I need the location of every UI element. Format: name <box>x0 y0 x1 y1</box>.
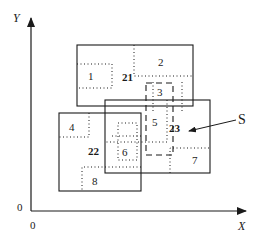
leaf-label-7: 7 <box>192 154 198 166</box>
origin-y-label: 0 <box>17 201 23 213</box>
leaf-label-2: 2 <box>158 56 164 68</box>
y-axis-label: Y <box>13 11 21 25</box>
node-label-21: 21 <box>122 71 133 83</box>
query-label: S <box>238 112 246 127</box>
origin-x-label: 0 <box>30 219 36 231</box>
leaf-rect-1 <box>77 64 112 88</box>
leaf-label-5: 5 <box>152 116 158 128</box>
leaf-label-4: 4 <box>69 121 75 133</box>
x-axis-label: X <box>237 219 246 233</box>
leaf-label-6: 6 <box>122 146 128 158</box>
leaf-partitions <box>59 45 210 191</box>
node-label-22: 22 <box>88 145 100 157</box>
leaf-label-1: 1 <box>88 70 94 82</box>
leaf-rect-8 <box>82 167 141 191</box>
leaf-label-8: 8 <box>92 175 98 187</box>
axes: Y X 0 0 <box>13 11 246 233</box>
leaf-rect-2 <box>134 45 193 76</box>
leaf-rect-7 <box>170 148 210 173</box>
node-label-23: 23 <box>169 122 181 134</box>
query-pointer-arrow <box>189 120 236 131</box>
r-tree-diagram: Y X 0 0 <box>0 0 260 243</box>
leaf-label-3: 3 <box>157 86 163 98</box>
diagram-canvas: Y X 0 0 <box>0 0 260 243</box>
